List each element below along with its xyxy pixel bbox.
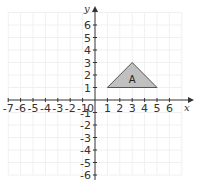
x-tick-label: -6 bbox=[15, 102, 26, 115]
y-tick-label: 3 bbox=[84, 57, 91, 70]
y-tick-label: 5 bbox=[84, 32, 91, 45]
x-tick-label: 2 bbox=[116, 102, 123, 115]
x-tick-label: 4 bbox=[141, 102, 148, 115]
shape-label: A bbox=[129, 74, 136, 85]
y-tick-label: -5 bbox=[80, 157, 91, 170]
coordinate-plane: -7-6-5-4-3-2-1123456654321-1-2-3-4-5-6 x… bbox=[0, 0, 205, 181]
y-tick-label: 1 bbox=[84, 82, 91, 95]
y-tick-label: 6 bbox=[84, 19, 91, 32]
x-tick-label: -3 bbox=[52, 102, 63, 115]
x-tick-label: -2 bbox=[65, 102, 76, 115]
y-tick-label: 2 bbox=[84, 69, 91, 82]
y-tick-label: 4 bbox=[84, 44, 91, 57]
y-axis-arrow-icon bbox=[92, 6, 98, 12]
x-tick-label: 5 bbox=[154, 102, 161, 115]
y-tick-label: -2 bbox=[80, 119, 91, 132]
x-tick-label: -5 bbox=[28, 102, 39, 115]
x-tick-label: -4 bbox=[40, 102, 51, 115]
x-tick-label: 3 bbox=[129, 102, 136, 115]
x-tick-label: 6 bbox=[166, 102, 173, 115]
axes bbox=[8, 6, 194, 180]
x-tick-label: -7 bbox=[3, 102, 14, 115]
y-axis-label: y bbox=[83, 3, 90, 14]
y-tick-label: -4 bbox=[80, 144, 91, 157]
y-tick-label: -3 bbox=[80, 132, 91, 145]
origin-label: 0 bbox=[87, 102, 94, 115]
x-tick-label: 1 bbox=[104, 102, 111, 115]
y-tick-label: -6 bbox=[80, 169, 91, 181]
x-axis-label: x bbox=[184, 102, 190, 113]
